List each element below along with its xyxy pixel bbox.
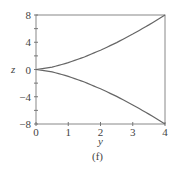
curve-upper xyxy=(36,15,165,70)
plot-frame xyxy=(36,15,165,124)
x-tick-label: 4 xyxy=(162,126,168,138)
chart: 840−4−8 01234 z y (f) xyxy=(0,0,179,173)
x-tick-label: 0 xyxy=(33,126,39,138)
y-tick-label: 4 xyxy=(26,36,32,48)
figure-caption: (f) xyxy=(92,150,103,163)
x-tick-label: 3 xyxy=(130,126,136,138)
y-tick-label: 0 xyxy=(26,64,32,76)
y-tick-label: −4 xyxy=(19,91,31,103)
x-tick-label: 1 xyxy=(66,126,72,138)
x-axis-label: y xyxy=(97,135,103,147)
y-axis-label: z xyxy=(10,63,16,75)
y-tick-label: −8 xyxy=(19,118,31,130)
y-tick-label: 8 xyxy=(26,9,32,21)
y-axis-ticks: 840−4−8 xyxy=(19,9,38,130)
curve-lower xyxy=(36,70,165,125)
data-series xyxy=(36,15,165,124)
